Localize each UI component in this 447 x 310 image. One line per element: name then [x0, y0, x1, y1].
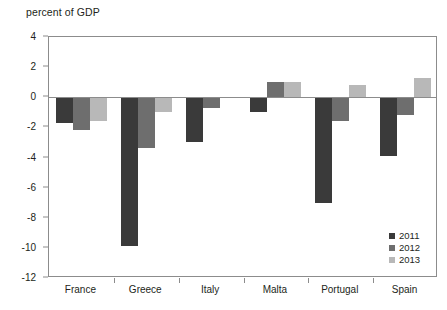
- x-tick-label: France: [65, 284, 96, 295]
- bar: [414, 78, 431, 98]
- x-tick-mark: [308, 278, 309, 283]
- x-tick-label: Greece: [129, 284, 162, 295]
- legend-item: 2012: [389, 242, 420, 253]
- y-tick-label: -8: [27, 211, 36, 222]
- y-tick-label: -4: [27, 151, 36, 162]
- legend-swatch-icon: [389, 245, 395, 251]
- legend-swatch-icon: [389, 257, 395, 263]
- legend: 201120122013: [386, 228, 423, 269]
- y-tick-label: 4: [30, 31, 36, 42]
- bar: [121, 97, 138, 246]
- bar: [349, 85, 366, 97]
- bar: [56, 97, 73, 123]
- legend-item: 2011: [389, 230, 420, 241]
- bar: [332, 97, 349, 121]
- bar: [284, 82, 301, 97]
- x-tick-label: Spain: [392, 284, 418, 295]
- x-tick-mark: [114, 278, 115, 283]
- y-tick-label: -12: [22, 272, 36, 283]
- bar: [155, 97, 172, 112]
- x-tick-label: Portugal: [321, 284, 358, 295]
- x-tick-mark: [244, 278, 245, 283]
- bars-layer: [49, 37, 436, 276]
- bar: [90, 97, 107, 121]
- bar: [186, 97, 203, 142]
- x-tick-label: Malta: [263, 284, 287, 295]
- plot-area: [48, 36, 437, 277]
- y-tick-label: 2: [30, 61, 36, 72]
- x-tick-mark: [179, 278, 180, 283]
- bar: [315, 97, 332, 202]
- bar: [267, 82, 284, 97]
- bar: [250, 97, 267, 112]
- y-tick-label: -6: [27, 181, 36, 192]
- x-tick-label: Italy: [201, 284, 219, 295]
- legend-label: 2012: [399, 243, 420, 253]
- bar: [73, 97, 90, 130]
- x-axis: FranceGreeceItalyMaltaPortugalSpain: [48, 284, 437, 302]
- legend-label: 2013: [399, 255, 420, 265]
- legend-label: 2011: [399, 231, 419, 241]
- chart-title: percent of GDP: [26, 6, 100, 18]
- legend-swatch-icon: [389, 233, 395, 239]
- bar-chart: percent of GDP 420-2-4-6-8-10-12 FranceG…: [0, 0, 447, 310]
- bar: [380, 97, 397, 156]
- y-tick-label: -2: [27, 121, 36, 132]
- bar: [203, 97, 220, 108]
- y-tick-label: -10: [22, 241, 36, 252]
- y-tick-label: 0: [30, 91, 36, 102]
- y-axis: 420-2-4-6-8-10-12: [0, 36, 44, 277]
- zero-baseline: [49, 97, 436, 98]
- legend-item: 2013: [389, 254, 420, 265]
- bar: [397, 97, 414, 115]
- bar: [138, 97, 155, 148]
- x-tick-mark: [373, 278, 374, 283]
